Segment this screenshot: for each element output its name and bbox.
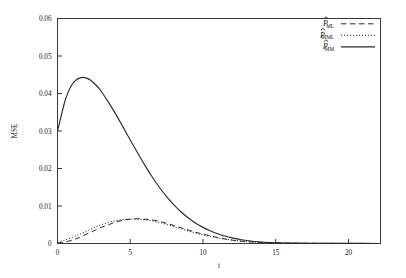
y-tick-label: 0 (48, 240, 52, 248)
mse-line-chart: 00.010.020.030.040.050.0605101520 MSEt P… (0, 0, 406, 278)
legend-subscript: ML (326, 23, 334, 29)
y-tick-label: 0.05 (39, 53, 52, 61)
axis-titles: MSEt (11, 123, 220, 269)
x-tick-label: 20 (345, 249, 353, 257)
x-tick-label: 5 (128, 249, 132, 257)
y-tick-label: 0.03 (39, 128, 52, 136)
curve-p-mm (58, 77, 378, 243)
axes (58, 19, 381, 244)
y-tick-label: 0.06 (39, 15, 52, 23)
x-tick-label: 10 (199, 249, 207, 257)
y-tick-label: 0.04 (39, 90, 52, 98)
y-axis-title: MSE (11, 123, 19, 138)
curve-p-mml (58, 219, 378, 243)
x-tick-label: 15 (272, 249, 280, 257)
y-tick-label: 0.01 (39, 203, 52, 211)
y-tick-label: 0.02 (39, 165, 52, 173)
legend-subscript: MML (322, 34, 334, 40)
axis-ticks (58, 19, 349, 244)
data-curves (58, 77, 378, 243)
x-axis-title: t (218, 262, 220, 270)
x-tick-label: 0 (56, 249, 60, 257)
axis-tick-labels: 00.010.020.030.040.050.0605101520 (39, 15, 353, 256)
chart-page: 00.010.020.030.040.050.0605101520 MSEt P… (0, 0, 406, 278)
plot-frame (58, 19, 381, 244)
legend: PMLPMMLPMM (319, 17, 375, 52)
curve-p-ml (58, 219, 378, 244)
legend-subscript: MM (325, 46, 335, 52)
